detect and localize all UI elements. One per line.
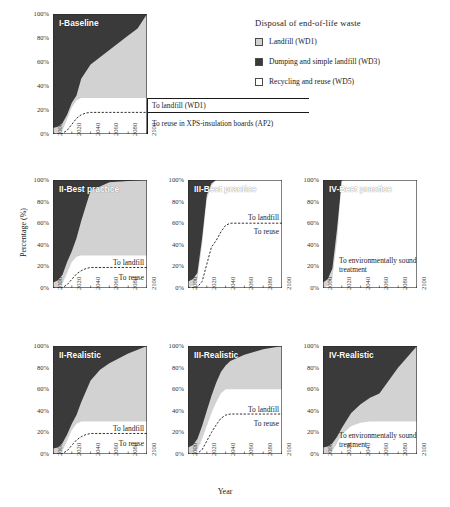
callout-leader-line — [147, 98, 309, 99]
y-tick-label: 60% — [162, 385, 184, 392]
panel-annotation: To landfill (WD1) — [152, 101, 206, 110]
legend-item-label: Landfill (WD1) — [269, 37, 317, 46]
y-tick-label: 40% — [27, 241, 49, 248]
panel-title: I-Baseline — [59, 18, 99, 28]
x-tick-label: 2040 — [94, 443, 101, 456]
x-tick-label: 2040 — [94, 123, 101, 136]
x-tick-label: 2000 — [56, 123, 63, 136]
x-tick-label: 2000 — [56, 277, 63, 290]
panel-annotation: To landfill — [113, 258, 144, 267]
y-tick-label: 40% — [27, 82, 49, 89]
y-tick-label: 80% — [297, 364, 319, 371]
y-tick-label: 80% — [27, 198, 49, 205]
x-tick-label: 2100 — [150, 277, 157, 290]
panel-annotation: To landfill — [248, 213, 279, 222]
y-tick-label: 20% — [297, 262, 319, 269]
legend-swatch-icon — [255, 38, 263, 46]
panel-annotation: To environmentally sound treatment — [339, 256, 417, 275]
y-tick-label: 100% — [162, 176, 184, 183]
x-tick-label: 2100 — [150, 443, 157, 456]
y-tick-label: 80% — [162, 198, 184, 205]
x-tick-label: 2060 — [112, 123, 119, 136]
x-tick-label: 2100 — [420, 277, 427, 290]
x-tick-label: 2080 — [266, 277, 273, 290]
x-tick-label: 2080 — [131, 123, 138, 136]
chart-panel-i-baseline: I-Baseline — [53, 14, 147, 134]
y-tick-label: 20% — [162, 262, 184, 269]
x-tick-label: 2020 — [210, 443, 217, 456]
panel-title: II-Realistic — [59, 350, 101, 360]
x-tick-label: 2020 — [210, 277, 217, 290]
x-tick-label: 2040 — [229, 443, 236, 456]
legend-swatch-icon — [255, 78, 263, 86]
x-tick-label: 2020 — [345, 277, 352, 290]
legend-title: Disposal of end-of-life waste — [255, 18, 445, 28]
chart-panel-ii-best-practice: II-Best practice — [53, 180, 147, 288]
y-tick-label: 100% — [162, 342, 184, 349]
panel-title: IV-Realistic — [329, 350, 374, 360]
y-tick-label: 60% — [297, 385, 319, 392]
x-tick-label: 2000 — [191, 443, 198, 456]
y-tick-label: 100% — [297, 176, 319, 183]
y-tick-label: 20% — [162, 428, 184, 435]
x-tick-label: 2020 — [75, 123, 82, 136]
panel-annotation: To reuse — [119, 273, 144, 282]
y-tick-label: 20% — [27, 262, 49, 269]
y-tick-label: 60% — [27, 219, 49, 226]
x-tick-label: 2060 — [247, 277, 254, 290]
x-tick-label: 2000 — [326, 277, 333, 290]
x-axis-label: Year — [0, 487, 450, 496]
x-tick-label: 2100 — [285, 443, 292, 456]
y-tick-label: 100% — [27, 342, 49, 349]
legend-item-wd1: Landfill (WD1) — [255, 37, 445, 46]
panel-title: II-Best practice — [59, 184, 119, 194]
x-tick-label: 2040 — [229, 277, 236, 290]
panel-annotation: To reuse — [119, 439, 144, 448]
callout-leader-line — [147, 112, 309, 113]
y-tick-label: 60% — [27, 58, 49, 65]
y-tick-label: 80% — [27, 364, 49, 371]
y-tick-label: 40% — [297, 241, 319, 248]
y-tick-label: 80% — [27, 34, 49, 41]
chart-panel-ii-realistic: II-Realistic — [53, 346, 147, 454]
y-tick-label: 40% — [162, 241, 184, 248]
figure-root: Disposal of end-of-life waste Landfill (… — [0, 0, 450, 507]
y-tick-label: 0% — [297, 284, 319, 291]
y-tick-label: 80% — [162, 364, 184, 371]
chart-legend: Disposal of end-of-life waste Landfill (… — [255, 18, 445, 97]
y-tick-label: 20% — [297, 428, 319, 435]
x-tick-label: 2080 — [401, 277, 408, 290]
x-tick-label: 2000 — [56, 443, 63, 456]
legend-swatch-icon — [255, 58, 263, 66]
y-tick-label: 20% — [27, 106, 49, 113]
y-tick-label: 40% — [27, 407, 49, 414]
x-tick-label: 2040 — [94, 277, 101, 290]
y-tick-label: 100% — [27, 176, 49, 183]
x-tick-label: 2000 — [326, 443, 333, 456]
legend-item-wd5: Recycling and reuse (WD5) — [255, 77, 445, 86]
y-tick-label: 0% — [27, 450, 49, 457]
panel-annotation: To reuse — [254, 419, 279, 428]
y-tick-label: 0% — [162, 284, 184, 291]
x-tick-label: 2020 — [75, 277, 82, 290]
chart-panel-iii-realistic: III-Realistic — [188, 346, 282, 454]
panel-annotation: To landfill — [113, 424, 144, 433]
legend-item-wd3: Dumping and simple landfill (WD3) — [255, 57, 445, 66]
y-tick-label: 80% — [297, 198, 319, 205]
legend-item-label: Dumping and simple landfill (WD3) — [269, 57, 380, 66]
x-tick-label: 2080 — [266, 443, 273, 456]
x-tick-label: 2100 — [285, 277, 292, 290]
callout-vertical-rule — [147, 98, 148, 134]
y-tick-label: 0% — [27, 130, 49, 137]
y-tick-label: 40% — [297, 407, 319, 414]
x-tick-label: 2040 — [364, 277, 371, 290]
y-tick-label: 100% — [27, 10, 49, 17]
panel-title: III-Realistic — [194, 350, 238, 360]
y-tick-label: 0% — [27, 284, 49, 291]
legend-item-label: Recycling and reuse (WD5) — [269, 77, 354, 86]
y-tick-label: 60% — [162, 219, 184, 226]
y-tick-label: 40% — [162, 407, 184, 414]
y-tick-label: 20% — [27, 428, 49, 435]
y-tick-label: 60% — [27, 385, 49, 392]
x-tick-label: 2060 — [247, 443, 254, 456]
